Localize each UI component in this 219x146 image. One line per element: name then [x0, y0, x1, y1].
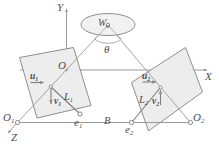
- right-u-axis-label: u2: [142, 72, 150, 82]
- right-epipolar-line-subscript: 2: [145, 99, 148, 106]
- left-u-axis-subscript: 1: [35, 76, 38, 82]
- world-point-label: Wo: [98, 18, 109, 28]
- baseline-label: B: [104, 116, 110, 127]
- origin-label: O: [58, 60, 66, 71]
- right-epipolar-line-label: L2: [139, 95, 148, 106]
- left-image-plane: [20, 48, 92, 119]
- left-epipolar-line-label: L1: [64, 92, 73, 103]
- right-epipole-label: e2: [125, 124, 133, 135]
- z-axis-label: Z: [11, 132, 17, 143]
- angle-theta-label: θ: [104, 44, 109, 55]
- world-point-subscript: o: [106, 22, 109, 29]
- left-camera-center-marker: [15, 120, 19, 124]
- right-u-axis-subscript: 2: [147, 76, 150, 82]
- left-epipole-subscript: 1: [79, 122, 82, 129]
- left-camera-center-label: O1: [3, 112, 14, 123]
- right-camera-center-letter: O: [193, 111, 201, 123]
- right-image-point-marker: [159, 86, 162, 89]
- right-epipolar-line-letter: L: [139, 94, 145, 105]
- right-camera-center-marker: [188, 120, 192, 124]
- left-epipolar-line-subscript: 1: [70, 96, 73, 103]
- left-u-axis-label: u1: [30, 72, 38, 82]
- left-camera-center-letter: O: [3, 111, 11, 123]
- x-axis-label: X: [205, 71, 212, 82]
- left-plane-quad: [20, 48, 92, 119]
- right-camera-center-label: O2: [193, 112, 204, 123]
- left-epipole-label: e1: [74, 117, 82, 128]
- left-epipolar-line-letter: L: [64, 91, 70, 102]
- right-camera-center-subscript: 2: [201, 117, 204, 124]
- stereo-geometry-figure: Y X Z O Wo θ B O1 e1 L1 u1 v1 O2 e2 L2: [0, 0, 219, 146]
- right-plane-quad: [132, 48, 203, 132]
- left-v-axis-subscript: 1: [58, 101, 61, 107]
- right-v-axis-subscript: 2: [156, 101, 159, 107]
- right-v-axis-label: v2: [152, 97, 159, 107]
- left-image-point-marker: [49, 85, 52, 88]
- right-image-plane: [132, 48, 203, 132]
- left-camera-center-subscript: 1: [11, 117, 14, 124]
- y-axis-label: Y: [57, 2, 63, 13]
- left-v-axis-label: v1: [54, 97, 61, 107]
- right-epipole-subscript: 2: [130, 129, 133, 136]
